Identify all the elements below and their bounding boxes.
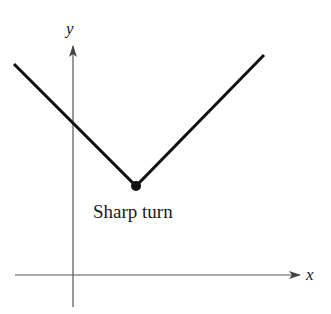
x-axis-label: x (305, 265, 314, 284)
y-axis-label: y (64, 19, 74, 38)
vertex-point (131, 181, 141, 191)
graph: x y Sharp turn (0, 0, 331, 314)
sharp-turn-label: Sharp turn (93, 201, 173, 222)
v-curve (14, 55, 264, 186)
